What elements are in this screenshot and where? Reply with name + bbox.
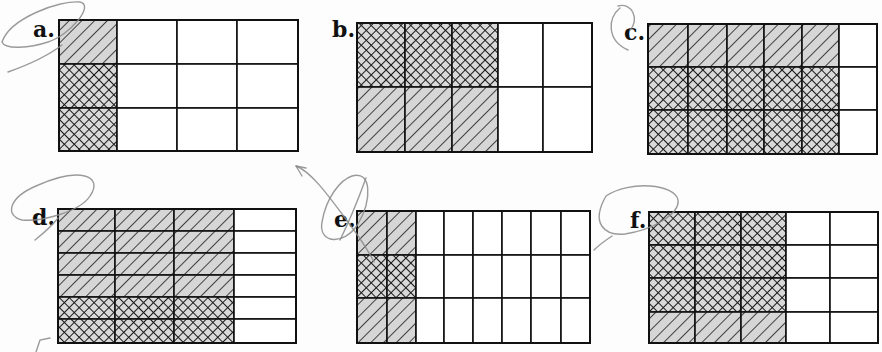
crosshatched-cell [648,67,688,110]
empty-cell [177,64,237,108]
empty-cell [786,245,830,278]
hatched-cell [357,87,405,152]
crosshatched-cell [802,110,839,154]
grid-b: b. [332,16,592,152]
crosshatched-cell [649,278,695,312]
crosshatched-cell [764,110,802,154]
hatched-cell [357,298,387,343]
grid-d: d. [32,204,296,343]
empty-cell [234,209,296,231]
crosshatched-cell [59,108,117,151]
crosshatched-cell [649,245,695,278]
hatched-cell [741,312,786,343]
empty-cell [830,278,878,312]
hatched-cell [58,275,115,297]
crosshatched-cell [58,319,115,343]
crosshatched-cell [452,23,498,87]
empty-cell [502,298,531,343]
hatched-cell [174,275,234,297]
empty-cell [786,312,830,343]
empty-cell [498,23,543,87]
empty-cell [531,211,561,255]
hatched-cell [174,253,234,275]
empty-cell [839,110,877,154]
empty-cell [234,253,296,275]
crosshatched-cell [764,67,802,110]
empty-cell [416,211,444,255]
hatched-cell [115,231,174,253]
hatched-cell [802,24,839,67]
empty-cell [830,212,878,245]
empty-cell [561,298,590,343]
empty-cell [117,20,177,64]
empty-cell [234,319,296,343]
hatched-cell [727,24,764,67]
empty-cell [177,20,237,64]
crosshatched-cell [174,297,234,319]
crosshatched-cell [695,278,741,312]
empty-cell [502,211,531,255]
pencil-mark [8,45,62,72]
empty-cell [237,108,298,151]
figure-canvas: a.b.c.d.e.f. [0,0,882,352]
empty-cell [237,64,298,108]
crosshatched-cell [688,110,727,154]
hatched-cell [764,24,802,67]
crosshatched-cell [741,245,786,278]
crosshatched-cell [802,67,839,110]
crosshatched-cell [174,319,234,343]
hatched-cell [405,87,452,152]
empty-cell [234,297,296,319]
pencil-mark [594,236,612,250]
empty-cell [473,211,502,255]
empty-cell [444,255,473,298]
empty-cell [237,20,298,64]
empty-cell [830,245,878,278]
crosshatched-cell [357,255,387,298]
empty-cell [786,278,830,312]
empty-cell [117,108,177,151]
empty-cell [444,211,473,255]
hatched-cell [387,298,416,343]
empty-cell [561,255,590,298]
empty-cell [502,255,531,298]
empty-cell [543,23,592,87]
hatched-cell [648,24,688,67]
crosshatched-cell [741,212,786,245]
crosshatched-cell [115,319,174,343]
empty-cell [234,231,296,253]
empty-cell [543,87,592,152]
grid-f: f. [630,207,878,343]
hatched-cell [115,275,174,297]
empty-cell [830,312,878,343]
grid-label: a. [33,16,55,42]
empty-cell [416,298,444,343]
hatched-cell [387,211,416,255]
grid-label: b. [332,16,355,42]
crosshatched-cell [58,297,115,319]
empty-cell [531,255,561,298]
empty-cell [473,255,502,298]
empty-cell [177,108,237,151]
crosshatched-cell [59,64,117,108]
crosshatched-cell [357,23,405,87]
empty-cell [561,211,590,255]
hatched-cell [58,231,115,253]
empty-cell [839,67,877,110]
crosshatched-cell [648,110,688,154]
grids-layer: a.b.c.d.e.f. [32,16,878,343]
crosshatched-cell [741,278,786,312]
empty-cell [531,298,561,343]
crosshatched-cell [695,212,741,245]
crosshatched-cell [727,67,764,110]
empty-cell [416,255,444,298]
hatched-cell [59,20,117,64]
pencil-mark [36,338,50,352]
empty-cell [839,24,877,67]
hatched-cell [174,209,234,231]
crosshatched-cell [405,23,452,87]
empty-cell [473,298,502,343]
hatched-cell [115,209,174,231]
grid-a: a. [33,16,298,151]
empty-cell [498,87,543,152]
